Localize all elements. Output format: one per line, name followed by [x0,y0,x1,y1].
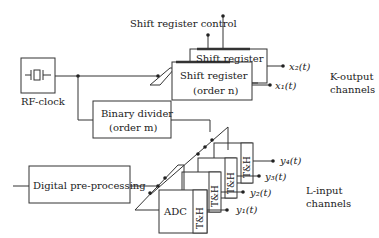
th-label-4: T&H [242,156,252,178]
shift-register-front-line1: Shift register [180,70,248,81]
shift-register-control-label: Shift register control [130,18,237,29]
th-label-1: T&H [195,207,205,229]
output-x1: x₁(t) [275,80,297,91]
input-y3: y₃(t) [264,171,287,182]
input-y4: y₄(t) [279,155,302,166]
adc-label: ADC [163,206,187,217]
l-input-line2: channels [306,198,351,209]
binary-divider-line1: Binary divider [101,108,173,119]
binary-divider-line2: (order m) [109,122,157,133]
k-output-line2: channels [330,84,375,95]
input-y2: y₂(t) [249,187,272,198]
shift-register-back-label: Shift register [196,53,264,64]
l-input-line1: L-input [306,185,343,196]
th-label-2: T&H [210,185,220,207]
block-diagram: Shift register control Shift register Sh… [0,0,379,238]
k-output-line1: K-output [330,71,373,82]
input-y1: y₁(t) [235,204,258,215]
th-label-3: T&H [226,172,236,194]
shift-register-front-line2: (order n) [193,85,238,96]
digital-preprocessing-label: Digital pre-processing [33,180,146,191]
diagram-canvas: Shift register control Shift register Sh… [0,0,379,238]
rf-clock-label: RF-clock [21,96,66,107]
output-x2: x₂(t) [289,61,311,72]
